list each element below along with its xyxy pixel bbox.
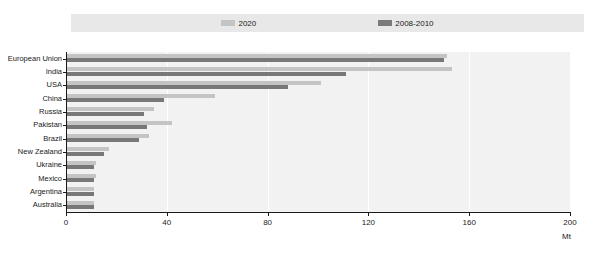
chart-legend: 2020 2008-2010: [71, 14, 584, 32]
bar-2020-russia[interactable]: [66, 107, 154, 111]
bar-2020-australia[interactable]: [66, 201, 94, 205]
legend-label-2008-2010: 2008-2010: [395, 19, 433, 28]
bar-2020-india[interactable]: [66, 67, 452, 71]
category-label-usa: USA: [0, 80, 62, 89]
chart-figure: 2020 2008-2010 European UnionIndiaUSAChi…: [0, 0, 589, 255]
bar-2020-brazil[interactable]: [66, 134, 149, 138]
bar-2008-2010-australia[interactable]: [66, 205, 94, 209]
bar-2008-2010-argentina[interactable]: [66, 192, 94, 196]
bar-2020-argentina[interactable]: [66, 187, 94, 191]
x-axis-tick-label: 80: [253, 218, 283, 227]
bar-2008-2010-new-zealand[interactable]: [66, 152, 104, 156]
legend-swatch-2008-2010-icon: [378, 20, 392, 26]
category-label-new-zealand: New Zealand: [0, 147, 62, 156]
category-label-argentina: Argentina: [0, 187, 62, 196]
x-axis-tick-label: 0: [51, 218, 81, 227]
bar-2020-ukraine[interactable]: [66, 161, 96, 165]
gridline: [368, 52, 369, 212]
bar-2008-2010-brazil[interactable]: [66, 138, 139, 142]
bar-2020-usa[interactable]: [66, 81, 321, 85]
category-label-ukraine: Ukraine: [0, 160, 62, 169]
category-label-russia: Russia: [0, 107, 62, 116]
category-label-india: India: [0, 67, 62, 76]
bar-2020-mexico[interactable]: [66, 174, 96, 178]
gridline: [469, 52, 470, 212]
category-label-european-union: European Union: [0, 54, 62, 63]
plot-area: [66, 52, 570, 212]
legend-item-2020[interactable]: 2020: [221, 19, 256, 28]
category-label-china: China: [0, 94, 62, 103]
gridline: [268, 52, 269, 212]
legend-item-2008-2010[interactable]: 2008-2010: [378, 19, 433, 28]
x-axis-unit-label: Mt: [562, 232, 571, 241]
legend-label-2020: 2020: [238, 19, 256, 28]
bar-2008-2010-mexico[interactable]: [66, 178, 94, 182]
x-axis-line: [66, 212, 571, 213]
bar-2008-2010-india[interactable]: [66, 72, 346, 76]
bar-2020-new-zealand[interactable]: [66, 147, 109, 151]
x-axis-tick-label: 200: [555, 218, 585, 227]
bar-2020-china[interactable]: [66, 94, 215, 98]
category-label-pakistan: Pakistan: [0, 120, 62, 129]
chart-title: [0, 0, 589, 2]
gridline: [167, 52, 168, 212]
x-axis-tick-label: 120: [353, 218, 383, 227]
bar-2020-pakistan[interactable]: [66, 121, 172, 125]
bar-2008-2010-european-union[interactable]: [66, 58, 444, 62]
legend-swatch-2020-icon: [221, 20, 235, 26]
category-label-brazil: Brazil: [0, 134, 62, 143]
bar-2020-european-union[interactable]: [66, 54, 447, 58]
x-axis-tick-label: 160: [454, 218, 484, 227]
bar-2008-2010-ukraine[interactable]: [66, 165, 94, 169]
bar-2008-2010-russia[interactable]: [66, 112, 144, 116]
category-label-australia: Australia: [0, 200, 62, 209]
x-axis-tick-label: 40: [152, 218, 182, 227]
bar-2008-2010-china[interactable]: [66, 98, 164, 102]
y-axis-line: [66, 52, 67, 212]
category-label-mexico: Mexico: [0, 174, 62, 183]
bar-2008-2010-usa[interactable]: [66, 85, 288, 89]
bar-2008-2010-pakistan[interactable]: [66, 125, 147, 129]
